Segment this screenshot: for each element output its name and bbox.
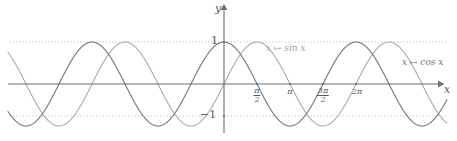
xtick-label-two-pi: 2π [352, 88, 362, 96]
tick-dot-y-minus-one [223, 115, 225, 117]
tick-dot-pi [289, 83, 291, 85]
xtick-label-three-pi-over-2: 3π 2 [317, 87, 329, 105]
xtick-label-pi: π [287, 88, 292, 96]
tick-dot-two-pi [355, 83, 357, 85]
y-axis-label: y [215, 3, 221, 14]
sine-curve-annotation: x ↦ sin x [266, 44, 306, 53]
sine-cosine-plot: y x 1 −1 x ↦ sin x x ↦ cos x π 2 π 3π 2 … [0, 0, 457, 141]
y-label-negative-one: −1 [200, 109, 216, 120]
tick-dot-y-plus-one [223, 41, 225, 43]
cosine-curve-annotation: x ↦ cos x [402, 58, 443, 67]
plot-canvas [0, 0, 457, 141]
tick-dot-three-pi-over-2 [322, 83, 324, 85]
xtick-pi-over-2-denominator: 2 [253, 96, 260, 104]
x-axis-label: x [444, 84, 450, 95]
y-axis-arrow [221, 4, 228, 10]
xtick-label-pi-over-2: π 2 [253, 87, 260, 105]
tick-dot-pi-over-2 [256, 83, 258, 85]
y-label-one: 1 [211, 35, 218, 46]
xtick-three-pi-over-2-denominator: 2 [317, 96, 329, 104]
